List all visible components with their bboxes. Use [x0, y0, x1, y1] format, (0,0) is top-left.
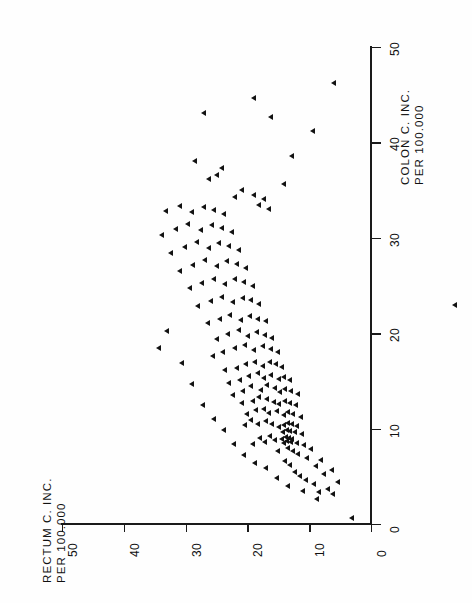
data-point [281, 422, 286, 428]
data-point [240, 388, 245, 394]
data-point [210, 353, 215, 359]
data-point [222, 367, 227, 373]
data-point [221, 427, 226, 433]
data-point [253, 407, 258, 413]
data-point [268, 114, 273, 120]
data-point [255, 370, 260, 376]
data-point [258, 387, 263, 393]
data-point [219, 165, 224, 171]
data-point [289, 153, 294, 159]
data-point [201, 204, 206, 210]
y-tick-mark [371, 238, 381, 239]
data-point [254, 329, 259, 335]
y-tick-mark [371, 524, 381, 525]
data-point [243, 265, 248, 271]
data-point [194, 239, 199, 245]
data-point [202, 257, 207, 263]
data-point [292, 429, 297, 435]
data-point [274, 475, 279, 481]
data-point [261, 196, 266, 202]
data-point [234, 261, 239, 267]
data-point [285, 445, 290, 451]
data-point [199, 280, 204, 286]
data-point [279, 436, 284, 442]
data-point [192, 158, 197, 164]
data-point [257, 435, 262, 441]
axis-title-line: PER 100.000 [412, 89, 426, 185]
x-tick-mark [186, 523, 187, 532]
data-point [242, 422, 247, 428]
data-point [311, 481, 316, 487]
data-point [263, 465, 268, 471]
data-point [276, 401, 281, 407]
data-point [276, 424, 281, 430]
data-point [232, 345, 237, 351]
data-point [303, 477, 308, 483]
data-point [208, 298, 213, 304]
data-point [281, 374, 286, 380]
data-point [182, 244, 187, 250]
data-point [260, 343, 265, 349]
data-point [285, 483, 290, 489]
data-point [226, 380, 231, 386]
data-point [236, 247, 241, 253]
data-point [206, 176, 211, 182]
data-point [232, 276, 237, 282]
data-point [325, 486, 330, 492]
data-point [187, 285, 192, 291]
data-point [168, 250, 173, 256]
data-point [329, 467, 334, 473]
data-point [279, 364, 284, 370]
data-point [297, 473, 302, 479]
data-point [220, 349, 225, 355]
data-point [308, 446, 313, 452]
y-tick-label: 0 [389, 526, 401, 533]
data-point [240, 295, 245, 301]
y-tick-label: 50 [389, 42, 401, 56]
data-point [287, 377, 292, 383]
data-point [330, 491, 335, 497]
data-point [179, 360, 184, 366]
data-point [251, 95, 256, 101]
data-point [274, 408, 279, 414]
data-point [255, 421, 260, 427]
data-point [232, 194, 237, 200]
data-point [211, 207, 216, 213]
x-tick-mark [124, 523, 125, 532]
data-point [189, 209, 194, 215]
data-point [214, 172, 219, 178]
data-point [282, 386, 287, 392]
data-point [164, 328, 169, 334]
data-point [255, 316, 260, 322]
data-point [290, 448, 295, 454]
data-point [314, 496, 319, 502]
y-tick-mark [371, 47, 381, 48]
data-point [216, 240, 221, 246]
data-point [163, 208, 168, 214]
data-point [266, 206, 271, 212]
data-point [230, 299, 235, 305]
axis-title-line: RECTUM C. INC. [40, 478, 54, 583]
data-point [239, 187, 244, 193]
data-point [304, 455, 309, 461]
data-point [282, 458, 287, 464]
data-point [293, 402, 298, 408]
data-point [250, 441, 255, 447]
chart-page: 01020304050 01020304050 RECTUM C. INC.PE… [0, 0, 472, 603]
data-point [281, 412, 286, 418]
data-point [221, 211, 226, 217]
data-point [252, 460, 257, 466]
data-point [263, 318, 268, 324]
data-point [301, 442, 306, 448]
data-point [238, 317, 243, 323]
data-point [318, 457, 323, 463]
data-point [266, 410, 271, 416]
x-tick-label: 30 [191, 543, 203, 557]
data-point [268, 346, 273, 352]
y-axis-line [370, 46, 372, 524]
data-point [268, 372, 273, 378]
data-point [331, 80, 336, 86]
data-point [250, 398, 255, 404]
data-point [177, 203, 182, 209]
data-point [251, 347, 256, 353]
